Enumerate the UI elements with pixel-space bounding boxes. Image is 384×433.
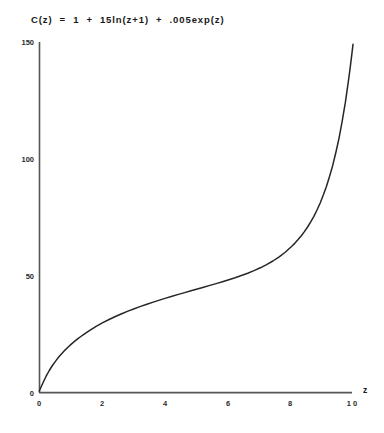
x-tick-label-6: 6: [226, 399, 230, 408]
y-tick-label-150: 150: [10, 38, 34, 47]
data-series-line: [39, 44, 353, 391]
x-tick-label-8: 8: [288, 399, 292, 408]
chart-figure: C(z) = 1 + 15ln(z+1) + .005exp(z) 150 10…: [0, 0, 384, 433]
y-tick-label-0: 0: [10, 389, 34, 398]
x-tick-label-0: 0: [37, 399, 41, 408]
y-tick-label-50: 50: [10, 272, 34, 281]
x-tick-label-2: 2: [100, 399, 104, 408]
x-tick-label-4: 4: [163, 399, 167, 408]
x-axis-title: z: [363, 385, 367, 395]
plot-canvas: [0, 0, 384, 433]
y-tick-label-100: 100: [10, 155, 34, 164]
axes: [39, 42, 352, 393]
x-tick-label-10: 1 0: [347, 399, 357, 408]
